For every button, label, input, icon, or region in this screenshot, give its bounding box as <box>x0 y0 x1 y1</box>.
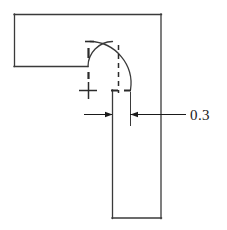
dimension-arrow-left-icon <box>105 112 113 118</box>
part-outline-group <box>14 14 162 219</box>
fillet-arc-group <box>88 42 131 91</box>
dimension-0-3-group: 0.3 <box>84 92 210 126</box>
dimension-arrow-right-icon <box>131 112 139 118</box>
technical-drawing: 0.3 <box>0 0 227 230</box>
centerline-group <box>79 42 131 100</box>
drawing-canvas: 0.3 <box>0 0 227 230</box>
dimension-value-label: 0.3 <box>190 107 210 123</box>
inner-fillet-arc <box>88 42 113 67</box>
